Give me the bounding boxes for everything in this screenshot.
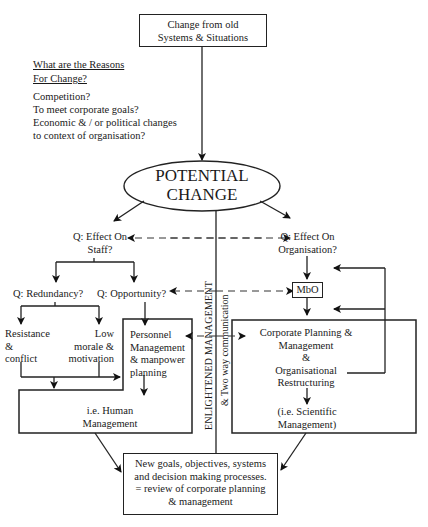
outcome-line-3: = review of corporate planning xyxy=(124,483,277,496)
scientific-management: (i.e. Scientific Management) xyxy=(255,406,359,431)
outcome-line-4: & management xyxy=(124,496,277,509)
outcome-line-1: New goals, objectives, systems xyxy=(124,458,277,471)
scientific-line-1: (i.e. Scientific xyxy=(255,406,359,419)
outcome-box: New goals, objectives, systems and decis… xyxy=(123,453,278,515)
scientific-line-2: Management) xyxy=(255,419,359,432)
spine-label-communication: & Two way communication xyxy=(219,294,230,406)
outcome-line-2: and decision making processes. xyxy=(124,471,277,484)
corporate-down-arrow xyxy=(0,0,428,527)
spine-label-enlightened: ENLIGHTENED MANAGEMENT xyxy=(203,281,214,430)
